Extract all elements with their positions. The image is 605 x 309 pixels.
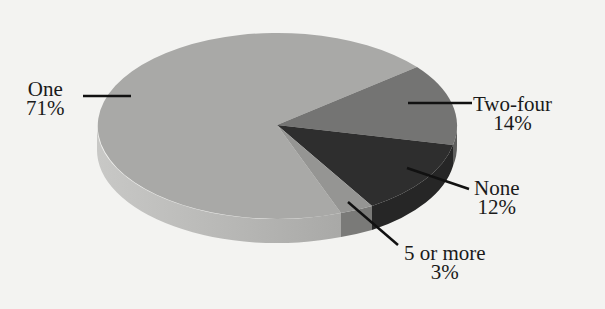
label-none: None 12%: [474, 179, 520, 217]
label-none-pct: 12%: [474, 198, 520, 217]
label-five-plus: 5 or more 3%: [404, 244, 486, 282]
label-two-four: Two-four 14%: [473, 95, 552, 133]
label-two-four-pct: 14%: [473, 114, 552, 133]
label-one-pct: 71%: [26, 99, 65, 118]
label-five-plus-pct: 3%: [404, 263, 486, 282]
label-one: One 71%: [26, 80, 65, 118]
pie-top: [98, 33, 457, 219]
pie-chart: [0, 0, 605, 309]
